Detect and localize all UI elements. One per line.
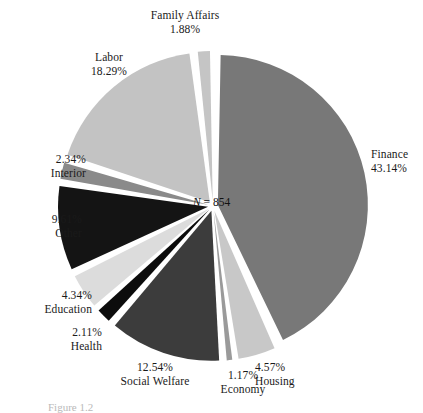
pie-label-name: Labor [59,51,159,65]
pie-label-health: 2.11%Health [32,326,102,353]
pie-label-name: Family Affairs [135,9,235,23]
pie-label-percent: 4.34% [22,289,92,303]
pie-label-percent: 1.17% [193,369,293,383]
pie-label-percent: 18.29% [59,65,159,79]
pie-label-percent: 9.61% [12,213,82,227]
pie-label-education: 4.34%Education [22,289,92,316]
pie-label-percent: 2.34% [16,153,86,167]
sample-size-value: 854 [213,196,230,208]
pie-label-percent: 1.88% [135,23,235,37]
pie-label-finance: Finance43.14% [371,148,408,175]
pie-label-name: Health [32,340,102,354]
sample-size-note: N = 854 [193,196,230,208]
pie-label-other: 9.61%Other [12,213,82,240]
pie-label-family-affairs: Family Affairs1.88% [135,9,235,36]
pie-label-name: Finance [371,148,408,162]
pie-label-social-welfare: 12.54%Social Welfare [105,361,205,388]
pie-label-percent: 12.54% [105,361,205,375]
pie-label-name: Economy [193,383,293,397]
pie-label-labor: Labor18.29% [59,51,159,78]
pie-label-interior: 2.34%Interior [16,153,86,180]
pie-chart-figure: Finance43.14%4.57%Housing1.17%Economy12.… [0,0,423,413]
pie-label-name: Other [12,227,82,241]
pie-label-name: Social Welfare [105,375,205,389]
pie-label-percent: 43.14% [371,162,408,176]
pie-label-name: Education [22,303,92,317]
sample-size-equals: = [201,196,213,208]
figure-caption: Figure 1.2 [48,401,93,413]
pie-label-economy: 1.17%Economy [193,369,293,396]
pie-label-percent: 2.11% [32,326,102,340]
pie-label-name: Interior [16,167,86,181]
sample-size-variable: N [193,196,201,208]
